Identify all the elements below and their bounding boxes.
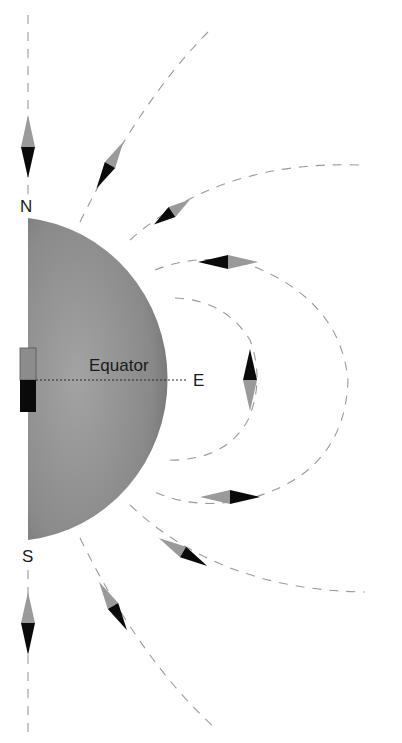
field-line-outer-north [80, 30, 210, 222]
compass-needle-inner-north [198, 255, 258, 269]
compass-needle-north-pole [21, 115, 35, 178]
earth-hemisphere [28, 218, 168, 540]
compass-needle-middle-south [156, 533, 210, 571]
east-label: E [193, 372, 204, 389]
field-line-middle-north [130, 165, 360, 240]
compass-needle-outer-south [94, 579, 132, 633]
equator-label: Equator [89, 357, 149, 374]
field-line-middle-south [130, 505, 365, 592]
north-label: N [20, 198, 32, 215]
compass-needle-middle-north [151, 194, 194, 229]
compass-needle-inner-south [200, 490, 260, 504]
field-line-outer-south [80, 538, 215, 728]
bar-magnet-bottom [20, 380, 36, 412]
south-label: S [22, 548, 33, 565]
compass-needle-south-pole [21, 592, 35, 655]
compass-needle-outer-north [91, 139, 128, 192]
bar-magnet-top [20, 348, 36, 380]
